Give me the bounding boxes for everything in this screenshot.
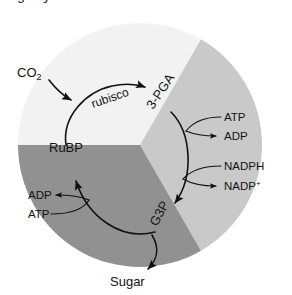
- cofactor-label-atp-reduction: ATP: [224, 111, 246, 123]
- cofactor-label-adp-regeneration: ADP: [28, 189, 52, 201]
- cofactor-label-nadp-plus: NADP+: [224, 179, 261, 192]
- cycle-canvas: Carboxylation Reduction Regeneration: [0, 0, 292, 295]
- cofactor-label-adp-reduction: ADP: [224, 130, 248, 142]
- cofactor-label-nadph: NADPH: [224, 160, 264, 172]
- phase-label-regeneration: Regeneration: [0, 0, 81, 3]
- cofactor-label-atp-regeneration: ATP: [28, 208, 50, 220]
- molecule-label-sugar: Sugar: [110, 274, 145, 289]
- phase-labels: Carboxylation Reduction Regeneration: [0, 0, 83, 3]
- molecule-label-rubp: RuBP: [49, 140, 83, 155]
- calvin-cycle-figure: Carboxylation Reduction Regeneration: [0, 0, 292, 295]
- molecule-label-co2: CO2: [17, 65, 42, 82]
